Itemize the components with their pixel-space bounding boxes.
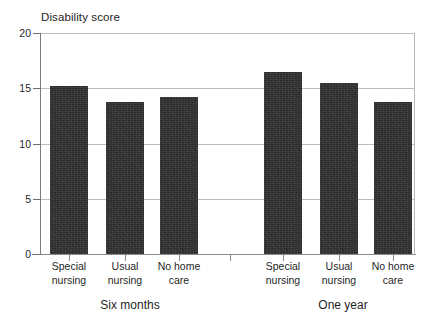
x-label-line1: Special	[52, 260, 86, 272]
bar-six-months-no-home-care	[160, 97, 198, 254]
x-label-line2: care	[355, 274, 431, 288]
y-tick-20	[33, 33, 41, 34]
y-tick-5	[33, 199, 41, 200]
disability-score-bar-chart: Disability score 20 15 10 5 0 Special nu…	[0, 0, 432, 323]
x-label-six-months-no-home-care: No home care	[141, 260, 217, 287]
bar-six-months-special-nursing	[50, 86, 88, 254]
y-tick-15	[33, 88, 41, 89]
bar-one-year-no-home-care	[374, 102, 412, 254]
y-tick-0	[33, 254, 41, 255]
gridline-20	[41, 33, 415, 34]
x-label-line1: No home	[158, 260, 201, 272]
x-label-line1: Special	[266, 260, 300, 272]
y-tick-label-20: 20	[5, 27, 31, 39]
y-tick-10	[33, 144, 41, 145]
y-tick-label-15: 15	[5, 82, 31, 94]
x-label-line1: No home	[372, 260, 415, 272]
bar-one-year-special-nursing	[264, 72, 302, 254]
gridline-15	[41, 88, 415, 89]
bar-one-year-usual-nursing	[320, 83, 358, 254]
y-tick-label-0: 0	[5, 248, 31, 260]
x-label-line1: Usual	[112, 260, 139, 272]
chart-title: Disability score	[41, 11, 120, 23]
x-label-line2: care	[141, 274, 217, 288]
gridline-10	[41, 144, 415, 145]
y-tick-label-5: 5	[5, 193, 31, 205]
x-axis-line	[32, 254, 416, 255]
y-tick-label-10: 10	[5, 138, 31, 150]
x-label-line1: Usual	[326, 260, 353, 272]
x-tick-mid	[230, 255, 231, 261]
group-label-six-months: Six months	[55, 298, 205, 312]
group-label-one-year: One year	[268, 298, 418, 312]
gridline-5	[41, 199, 415, 200]
bar-six-months-usual-nursing	[106, 102, 144, 254]
x-label-one-year-no-home-care: No home care	[355, 260, 431, 287]
